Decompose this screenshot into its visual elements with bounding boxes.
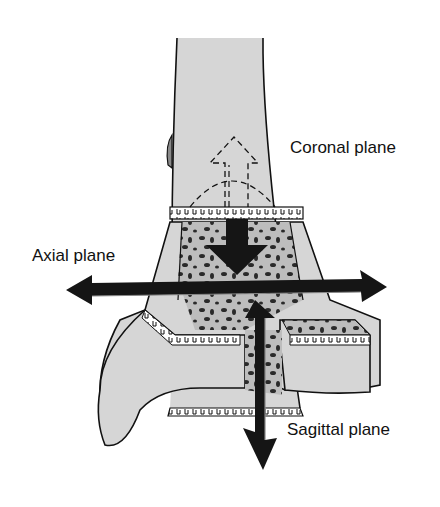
coronal-cut-ticks <box>170 207 303 219</box>
sagittal-plane-label: Sagittal plane <box>287 420 390 440</box>
notch-mark <box>167 135 172 168</box>
axial-plane-label: Axial plane <box>32 246 115 266</box>
coronal-plane-label: Coronal plane <box>290 138 396 158</box>
coronal-cut-band <box>168 408 303 416</box>
